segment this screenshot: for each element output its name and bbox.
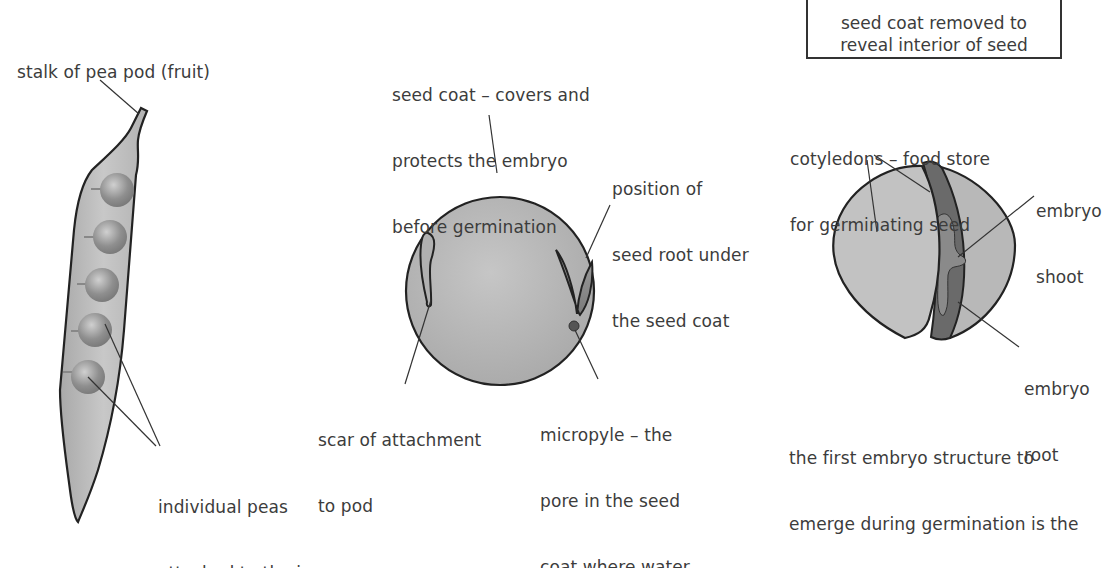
germination-note: the first embryo structure to emerge dur… (789, 403, 1079, 568)
seed-coat-removed-box: seed coat removed to reveal interior of … (806, 0, 1062, 59)
seed-coat-label: seed coat – covers and protects the embr… (392, 40, 590, 260)
box-line-1: seed coat removed to (808, 12, 1060, 34)
box-line-2: reveal interior of seed (808, 34, 1060, 56)
pea-3 (85, 268, 119, 302)
scar-label: scar of attachment to pod (318, 385, 481, 539)
peas-label: individual peas attached to the inner wa… (158, 452, 341, 568)
micropyle (569, 321, 579, 331)
pea-pod (60, 108, 147, 522)
pea-4 (78, 313, 112, 347)
stalk-label: stalk of pea pod (fruit) (17, 61, 210, 83)
cotyledons-label: cotyledons – food store for germinating … (790, 104, 990, 258)
pea-1 (100, 173, 134, 207)
pod-outline (60, 108, 147, 522)
micropyle-label: micropyle – the pore in the seed coat wh… (540, 380, 692, 568)
pea-2 (93, 220, 127, 254)
embryo-shoot-label: embryo shoot (1036, 156, 1102, 310)
root-position-label: position of seed root under the seed coa… (612, 134, 749, 354)
